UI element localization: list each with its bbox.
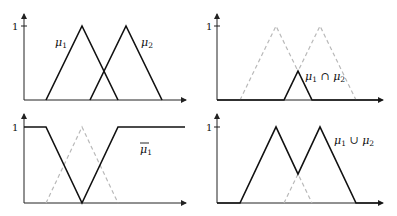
y-tick-label: 1 [206,21,212,32]
panel-intersection: 1 μ1 ∩ μ2 [206,14,383,100]
complement-curve [24,127,185,203]
mu1-dashed-triangle [46,127,118,203]
intersection-label: μ1 ∩ μ2 [305,70,345,84]
intersection-dashed [284,174,312,203]
y-tick-label: 1 [12,122,18,133]
y-tick-label: 1 [12,21,18,32]
y-tick-label: 1 [206,122,212,133]
mu2-label: μ2 [141,36,153,50]
panel-union: 1 μ1 ∪ μ2 [206,114,383,203]
complement-label: μ1 [140,143,152,157]
panel-sets: 1 μ1 μ2 [12,14,186,100]
fuzzy-operations-diagram: 1 μ1 μ2 1 μ1 ∩ μ2 1 μ1 1 μ1 ∪ μ2 [0,0,397,216]
intersection-curve [217,71,382,100]
mu1-dashed-triangle [240,26,312,100]
mu2-dashed-triangle [284,26,356,100]
union-label: μ1 ∪ μ2 [334,134,374,148]
panel-complement: 1 μ1 [12,114,186,203]
mu1-label: μ1 [55,36,67,50]
